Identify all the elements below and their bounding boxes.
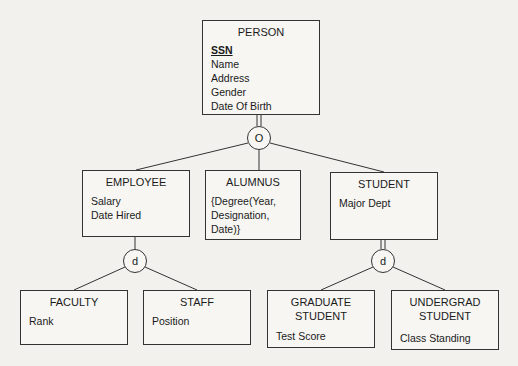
entity-title: STUDENT [331, 178, 437, 191]
disjoint-circle-student: d [371, 249, 395, 273]
attribute: Rank [29, 314, 127, 328]
entity-alumnus: ALUMNUS {Degree(Year, Designation, Date)… [205, 170, 301, 240]
entity-title: FACULTY [21, 296, 127, 309]
attribute: Address [211, 71, 319, 85]
attribute: Salary [91, 194, 189, 208]
entity-staff: STAFF Position [143, 290, 251, 345]
key-attribute: SSN [211, 43, 319, 57]
entity-title-line1: UNDERGRAD [392, 296, 498, 309]
disjoint-circle-employee: d [123, 249, 147, 273]
entity-title: ALUMNUS [206, 176, 300, 189]
attribute: Date Of Birth [211, 99, 319, 113]
attribute: Position [152, 314, 250, 328]
entity-faculty: FACULTY Rank [20, 290, 128, 345]
attribute: Test Score [276, 329, 374, 343]
entity-title-line1: GRADUATE [268, 296, 374, 309]
entity-student: STUDENT Major Dept [330, 172, 438, 240]
entity-person: PERSON SSN Name Address Gender Date Of B… [202, 20, 320, 115]
entity-employee: EMPLOYEE Salary Date Hired [82, 170, 190, 237]
attribute: Major Dept [339, 196, 437, 210]
attribute: Class Standing [400, 331, 498, 345]
entity-title: PERSON [203, 26, 319, 39]
attribute: Date)} [211, 222, 300, 236]
attribute: {Degree(Year, [211, 194, 300, 208]
entity-title: EMPLOYEE [83, 176, 189, 189]
entity-graduate-student: GRADUATE STUDENT Test Score [267, 290, 375, 348]
attribute: Name [211, 57, 319, 71]
entity-undergrad-student: UNDERGRAD STUDENT Class Standing [391, 290, 499, 350]
attribute: Date Hired [91, 208, 189, 222]
entity-title-line2: STUDENT [268, 310, 374, 323]
overlap-circle: O [247, 126, 271, 150]
entity-title-line2: STUDENT [392, 310, 498, 323]
entity-title: STAFF [144, 296, 250, 309]
attribute: Designation, [211, 208, 300, 222]
attribute: Gender [211, 85, 319, 99]
